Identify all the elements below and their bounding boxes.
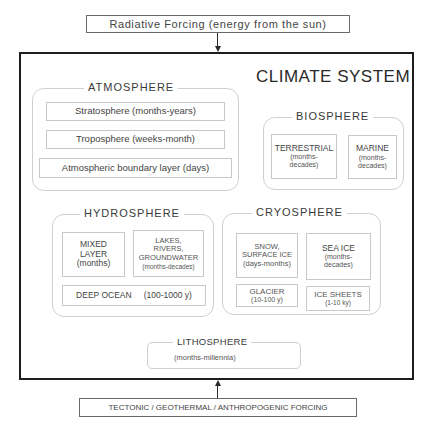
deep-ocean-time: (100-1000 y) — [144, 291, 192, 301]
radiative-forcing-label: Radiative Forcing (energy from the sun) — [109, 18, 326, 30]
stratosphere-label: Stratosphere (months-years) — [75, 106, 196, 117]
mixed-layer-time: (months) — [77, 259, 111, 269]
lakes-rivers-box: LAKES, RIVERS, GROUNDWATER (months-decad… — [133, 230, 204, 277]
arrow-down-line — [217, 33, 218, 47]
tectonic-forcing-box: TECTONIC / GEOTHERMAL / ANTHROPOGENIC FO… — [79, 398, 357, 417]
glacier-box: GLACIER (10-100 y) — [236, 284, 298, 307]
climate-system-title: CLIMATE SYSTEM — [256, 67, 410, 87]
marine-time-1: (months- — [359, 154, 387, 162]
snow-surface-ice-box: SNOW, SURFACE ICE (days-months) — [236, 233, 298, 278]
tectonic-forcing-label: TECTONIC / GEOTHERMAL / ANTHROPOGENIC FO… — [108, 403, 327, 412]
sea-ice-time-1: (months- — [325, 253, 353, 261]
glacier-label: GLACIER — [249, 287, 284, 296]
stratosphere-box: Stratosphere (months-years) — [46, 102, 225, 121]
groundwater-label: GROUNDWATER — [139, 254, 199, 263]
lithosphere-time: (months-millennia) — [174, 353, 236, 362]
marine-time-2: decades) — [358, 162, 387, 170]
marine-box: MARINE (months- decades) — [348, 135, 397, 179]
boundary-layer-label: Atmospheric boundary layer (days) — [62, 163, 209, 174]
ice-sheets-box: ICE SHEETS (1-10 ky) — [306, 286, 370, 311]
ice-sheets-time: (1-10 ky) — [325, 299, 351, 306]
deep-ocean-label: DEEP OCEAN — [76, 291, 132, 301]
lakes-time: (months-decades) — [142, 263, 194, 270]
radiative-forcing-box: Radiative Forcing (energy from the sun) — [86, 15, 350, 33]
terrestrial-label: TERRESTRIAL — [275, 144, 334, 154]
cryosphere-title: CRYOSPHERE — [252, 206, 347, 218]
boundary-layer-box: Atmospheric boundary layer (days) — [39, 158, 232, 178]
troposphere-label: Troposphere (weeks-month) — [76, 134, 195, 145]
snow-time: (days-months) — [243, 260, 291, 269]
troposphere-box: Troposphere (weeks-month) — [46, 130, 225, 149]
mixed-layer-box: MIXED LAYER (months) — [62, 232, 125, 277]
marine-label: MARINE — [356, 144, 389, 154]
lithosphere-title: LITHOSPHERE — [173, 336, 251, 347]
sea-ice-label: SEA ICE — [322, 244, 355, 254]
ice-sheets-label: ICE SHEETS — [314, 290, 362, 299]
terrestrial-time-2: decades) — [290, 161, 319, 169]
hydrosphere-title: HYDROSPHERE — [80, 207, 184, 219]
terrestrial-time-1: (months- — [290, 153, 318, 161]
arrow-up-line — [217, 385, 218, 398]
glacier-time: (10-100 y) — [251, 296, 283, 304]
terrestrial-box: TERRESTRIAL (months- decades) — [271, 134, 337, 179]
deep-ocean-box: DEEP OCEAN (100-1000 y) — [62, 285, 206, 306]
sea-ice-box: SEA ICE (months- decades) — [306, 233, 371, 280]
sea-ice-time-2: decades) — [324, 261, 353, 269]
atmosphere-title: ATMOSPHERE — [84, 81, 178, 93]
biosphere-title: BIOSPHERE — [292, 110, 373, 122]
